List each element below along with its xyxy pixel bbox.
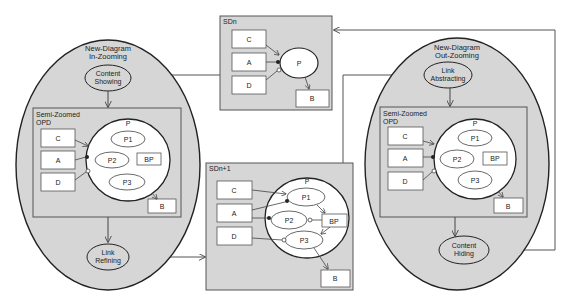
svg-text:Refining: Refining [95,257,121,265]
svg-text:Content: Content [452,242,477,249]
svg-text:P: P [297,60,302,67]
out-zooming-title-2: Out-Zooming [435,51,479,60]
svg-text:Semi-Zoomed: Semi-Zoomed [383,110,427,117]
svg-text:D: D [246,82,251,89]
in-zooming-title-2: In-Zooming [89,52,127,61]
svg-text:P2: P2 [453,156,462,163]
svg-text:D: D [231,233,236,240]
svg-text:B: B [160,203,165,210]
svg-text:A: A [247,59,252,66]
svg-text:Abstracting: Abstracting [430,75,465,83]
svg-text:C: C [246,36,251,43]
sdn-panel: SDn C A D P B [220,16,332,110]
svg-text:P1: P1 [471,135,480,142]
svg-text:A: A [56,157,61,164]
svg-text:P: P [473,120,478,127]
svg-text:Link: Link [102,249,115,256]
sdn1-panel: SDn+1 C A D P P1 P2 BP P3 B [206,163,353,290]
svg-text:OPD: OPD [36,119,51,126]
svg-text:OPD: OPD [383,118,398,125]
svg-text:D: D [402,178,407,185]
svg-text:A: A [232,210,237,217]
svg-text:B: B [310,95,315,102]
out-zooming-ellipse: New-Diagram Out-Zooming Link Abstracting… [365,38,549,290]
svg-text:Hiding: Hiding [454,250,474,258]
svg-text:BP: BP [490,155,500,162]
svg-text:P2: P2 [108,157,117,164]
svg-text:C: C [402,133,407,140]
diagram-canvas: New-Diagram In-Zooming Content Showing S… [0,0,581,306]
svg-text:BP: BP [329,218,339,225]
svg-text:C: C [231,187,236,194]
content-showing-process[interactable]: Content Showing [85,65,131,91]
svg-text:B: B [333,275,338,282]
link-refining-process[interactable]: Link Refining [87,244,129,270]
svg-text:P: P [126,120,131,127]
svg-text:Showing: Showing [95,78,122,86]
svg-text:Link: Link [442,67,455,74]
svg-text:BP: BP [144,156,154,163]
svg-text:P3: P3 [471,177,480,184]
svg-text:D: D [55,179,60,186]
in-zooming-ellipse: New-Diagram In-Zooming Content Showing S… [16,40,200,290]
svg-text:P1: P1 [302,194,311,201]
in-zooming-opd: Semi-Zoomed OPD C A D P P1 P2 BP P3 B [33,108,181,217]
sdn-label: SDn [223,18,237,25]
svg-text:P2: P2 [285,217,294,224]
svg-text:P3: P3 [300,237,309,244]
svg-text:C: C [55,135,60,142]
svg-text:P3: P3 [123,179,132,186]
svg-text:P1: P1 [124,136,133,143]
sdn1-label: SDn+1 [209,165,231,172]
svg-text:A: A [403,155,408,162]
svg-text:Semi-Zoomed: Semi-Zoomed [36,111,80,118]
link-abstracting-process[interactable]: Link Abstracting [424,62,472,88]
out-zooming-opd: Semi-Zoomed OPD C A D P P1 P2 BP P3 B [380,107,527,217]
svg-text:B: B [506,203,511,210]
content-hiding-process[interactable]: Content Hiding [439,236,489,264]
svg-text:Content: Content [96,70,121,77]
svg-text:P: P [305,178,310,185]
